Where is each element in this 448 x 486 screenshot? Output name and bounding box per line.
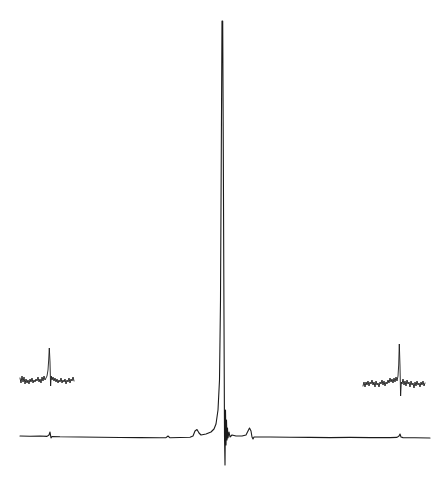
spectrum-plot — [0, 0, 448, 486]
right-inset-trace — [363, 344, 425, 396]
left-inset-trace — [20, 348, 74, 386]
main-trace-left — [20, 21, 430, 465]
